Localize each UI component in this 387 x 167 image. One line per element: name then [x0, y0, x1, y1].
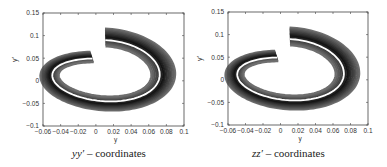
plot-area [226, 28, 360, 110]
x-tick-label: 0.1 [363, 127, 372, 134]
x-tick-label: 0 [279, 127, 283, 134]
x-tick-label: 0.04 [309, 127, 322, 134]
plot-area [40, 29, 175, 111]
y-tick-label: 0.1 [215, 31, 224, 38]
caption-zz: zz′ – coordinates [252, 147, 325, 159]
x-tick-label: 0.04 [125, 128, 138, 135]
x-tick-label: −0.02 [255, 127, 272, 134]
y-tick-label: −0.05 [208, 99, 225, 106]
y-tick-label: 0 [220, 76, 224, 83]
x-tick-label: −0.02 [70, 128, 87, 135]
y-tick-label: 0.1 [30, 32, 39, 39]
panel-zz: −0.06−0.04−0.0200.020.040.060.080.1−0.1−… [186, 0, 380, 167]
spiral-plot-zz: −0.06−0.04−0.0200.020.040.060.080.1−0.1−… [186, 0, 380, 167]
x-tick-label: 0.08 [344, 127, 357, 134]
x-tick-label: 0.02 [107, 128, 120, 135]
y-tick-label: 0 [35, 77, 39, 84]
y-tick-label: −0.1 [211, 121, 224, 128]
y-tick-label: 0.15 [211, 8, 224, 15]
x-tick-label: −0.04 [52, 128, 69, 135]
x-tick-label: 0.06 [142, 128, 155, 135]
y-axis-label: y′ [196, 55, 204, 61]
y-tick-label: −0.05 [23, 100, 40, 107]
x-tick-label: 0.02 [292, 127, 305, 134]
x-axis-label: y [114, 136, 118, 144]
panel-yy: −0.06−0.04−0.0200.020.040.060.080.1−0.1−… [0, 0, 194, 167]
x-tick-label: 0.06 [327, 127, 340, 134]
x-tick-label: 0 [94, 128, 98, 135]
x-tick-label: 0.08 [160, 128, 173, 135]
y-tick-label: 0.05 [26, 55, 39, 62]
y-tick-label: 0.15 [26, 9, 39, 16]
spiral-plot-yy: −0.06−0.04−0.0200.020.040.060.080.1−0.1−… [0, 0, 194, 167]
y-axis-label: y′ [11, 56, 19, 62]
caption-yy: yy′ – coordinates [72, 147, 146, 159]
y-tick-label: −0.1 [26, 122, 39, 129]
x-tick-label: −0.04 [237, 127, 254, 134]
y-tick-label: 0.05 [211, 54, 224, 61]
x-axis-label: y [298, 135, 302, 143]
